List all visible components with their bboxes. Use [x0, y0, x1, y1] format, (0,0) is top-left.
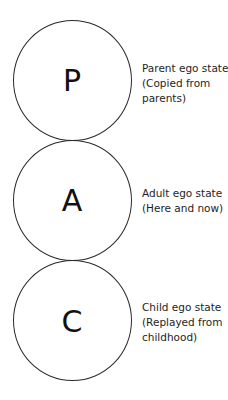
adult-label-line-2: (Here and now) — [142, 201, 228, 216]
adult-letter: A — [12, 186, 132, 216]
adult-label: Adult ego state (Here and now) — [142, 186, 228, 216]
parent-letter: P — [12, 66, 132, 96]
parent-label-line-2: (Copied from — [142, 76, 228, 91]
parent-label-line-1: Parent ego state — [142, 61, 228, 76]
child-label-line-1: Child ego state — [142, 300, 228, 315]
parent-label-line-3: parents) — [142, 91, 228, 106]
child-label-line-3: childhood) — [142, 330, 228, 345]
ego-state-diagram: P Parent ego state (Copied from parents)… — [0, 0, 228, 400]
child-label: Child ego state (Replayed from childhood… — [142, 300, 228, 345]
adult-label-line-1: Adult ego state — [142, 186, 228, 201]
child-label-line-2: (Replayed from — [142, 315, 228, 330]
child-letter: C — [12, 307, 132, 337]
parent-label: Parent ego state (Copied from parents) — [142, 61, 228, 106]
